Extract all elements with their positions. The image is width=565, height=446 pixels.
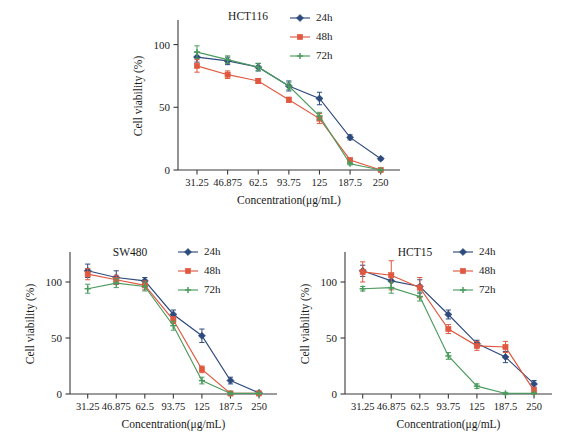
data-point	[503, 344, 508, 349]
data-point	[194, 49, 200, 55]
x-axis-title: Concentration(μg/mL)	[122, 418, 226, 431]
legend-label-48h: 48h	[204, 264, 221, 276]
legend-marker-24h	[184, 248, 191, 255]
y-tick-label: 50	[326, 332, 338, 344]
series-48h	[194, 60, 383, 173]
y-tick-label: 100	[321, 276, 338, 288]
x-tick-label: 93.75	[437, 401, 461, 412]
legend-item-72h[interactable]: 72h	[178, 283, 221, 295]
data-point	[256, 78, 261, 83]
chart-title-sw480: SW480	[113, 246, 148, 258]
series-24h	[193, 52, 384, 162]
legend-label-48h: 48h	[316, 30, 333, 42]
x-tick-label: 187.5	[338, 177, 362, 188]
x-tick-label: 31.25	[185, 177, 209, 188]
series-72h	[85, 279, 263, 397]
chart-panel-hct15: 05010031.2546.87562.593.75125187.5250Con…	[283, 228, 565, 442]
legend-item-48h[interactable]: 48h	[290, 30, 333, 42]
legend-marker-72h	[185, 287, 191, 293]
legend-label-72h: 72h	[316, 49, 333, 61]
data-point	[377, 155, 384, 162]
axes	[178, 20, 400, 170]
data-point	[417, 285, 422, 290]
y-axis-ticks: 050100	[321, 276, 346, 400]
series-line-24h	[88, 271, 259, 393]
chart-title-hct15: HCT15	[398, 246, 433, 258]
series-72h	[360, 282, 538, 397]
series-line-48h	[88, 274, 259, 393]
chart-panel-sw480: 05010031.2546.87562.593.75125187.5250Con…	[8, 228, 293, 442]
x-tick-label: 46.875	[377, 401, 406, 412]
data-point	[227, 377, 234, 384]
legend-item-24h[interactable]: 24h	[178, 245, 221, 257]
x-tick-label: 250	[526, 401, 542, 412]
legend-label-72h: 72h	[479, 283, 496, 295]
series-line-72h	[197, 52, 381, 170]
x-tick-label: 62.5	[136, 401, 154, 412]
x-tick-label: 31.25	[351, 401, 375, 412]
data-point	[85, 286, 91, 292]
legend-marker-72h	[297, 53, 303, 59]
x-tick-label: 125	[312, 177, 328, 188]
y-axis-ticks: 050100	[46, 276, 71, 400]
y-tick-label: 50	[159, 101, 171, 113]
legend-marker-24h	[459, 248, 466, 255]
legend-item-24h[interactable]: 24h	[290, 11, 333, 23]
legend-marker-48h	[297, 34, 302, 39]
legend-marker-24h	[296, 14, 303, 21]
x-tick-label: 46.875	[102, 401, 131, 412]
data-point	[389, 273, 394, 278]
data-point	[199, 367, 204, 372]
legend-marker-72h	[460, 287, 466, 293]
chart-svg-hct116: 05010031.2546.87562.593.75125187.5250Con…	[118, 4, 418, 216]
x-tick-label: 187.5	[219, 401, 243, 412]
chart-panel-hct116: 05010031.2546.87562.593.75125187.5250Con…	[118, 4, 418, 216]
data-point	[474, 343, 479, 348]
data-point	[502, 390, 508, 396]
series-72h	[194, 46, 384, 173]
x-axis-title: Concentration(μg/mL)	[397, 418, 501, 431]
series-line-72h	[88, 283, 259, 393]
x-tick-label: 62.5	[411, 401, 429, 412]
series-48h	[85, 269, 262, 396]
series-48h	[360, 261, 537, 394]
legend-item-48h[interactable]: 48h	[178, 264, 221, 276]
x-tick-label: 93.75	[162, 401, 186, 412]
legend: 24h48h72h	[290, 11, 333, 61]
x-tick-label: 250	[373, 177, 389, 188]
legend-item-72h[interactable]: 72h	[453, 283, 496, 295]
series-line-72h	[363, 288, 534, 394]
legend: 24h48h72h	[178, 245, 221, 295]
y-tick-label: 0	[57, 388, 63, 400]
y-tick-label: 0	[165, 164, 171, 176]
figure-root: 05010031.2546.87562.593.75125187.5250Con…	[0, 0, 565, 446]
x-axis-title: Concentration(μg/mL)	[237, 194, 341, 207]
y-axis-title: Cell viability (%)	[299, 284, 312, 365]
x-axis-ticks: 31.2546.87562.593.75125187.5250	[351, 394, 542, 412]
y-tick-label: 50	[51, 332, 63, 344]
data-point	[85, 272, 90, 277]
data-point	[194, 63, 199, 68]
chart-title-hct116: HCT116	[228, 10, 268, 22]
y-tick-label: 100	[154, 39, 171, 51]
legend-label-48h: 48h	[479, 264, 496, 276]
y-axis-title: Cell viability (%)	[24, 284, 37, 365]
y-axis-title: Cell viability (%)	[132, 56, 145, 137]
data-point	[199, 377, 205, 383]
legend-item-24h[interactable]: 24h	[453, 245, 496, 257]
legend-marker-48h	[185, 268, 190, 273]
x-tick-label: 125	[469, 401, 485, 412]
y-tick-label: 100	[46, 276, 63, 288]
legend-item-48h[interactable]: 48h	[453, 264, 496, 276]
legend-item-72h[interactable]: 72h	[290, 49, 333, 61]
legend-label-72h: 72h	[204, 283, 221, 295]
x-tick-label: 187.5	[494, 401, 518, 412]
data-point	[446, 326, 451, 331]
legend-label-24h: 24h	[204, 245, 221, 257]
chart-svg-hct15: 05010031.2546.87562.593.75125187.5250Con…	[283, 228, 565, 442]
x-tick-label: 250	[251, 401, 267, 412]
legend-label-24h: 24h	[316, 11, 333, 23]
y-axis-ticks: 050100	[154, 39, 179, 176]
data-point	[360, 269, 365, 274]
data-point	[286, 97, 291, 102]
